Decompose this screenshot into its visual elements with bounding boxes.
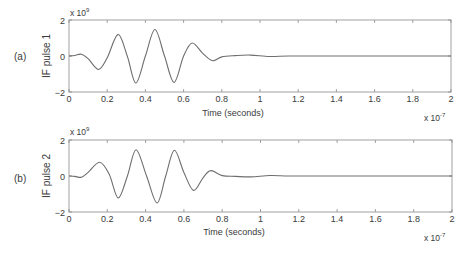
x-tick-label: 0.8 [216,214,229,224]
x-tick-label: 1.4 [330,94,343,104]
y-exponent: x 109 [70,126,90,137]
panel-b: (b) IF pulse 2 x 109 Time (seconds) x 10… [14,126,455,243]
x-tick-label: 2 [449,214,454,224]
panel-a: (a) IF pulse 1 x 109 Time (seconds) x 10… [14,7,454,123]
x-tick-label: 1.6 [368,94,381,104]
y-tick-label: 2 [60,136,65,146]
x-axis-label: Time (seconds) [203,227,265,237]
x-tick-label: 0.8 [216,94,229,104]
y-tick-label: −2 [55,88,65,98]
x-tick-labels: 00.20.40.60.811.21.41.61.82 [66,94,453,104]
x-tick-label: 0 [66,214,71,224]
y-tick-label: −2 [55,208,65,218]
y-tick-labels: 20−2 [55,16,65,98]
y-tick-label: 0 [60,172,65,182]
x-tick-label: 0.2 [101,94,114,104]
x-exponent: x 10-7 [424,232,446,243]
x-tick-labels: 00.20.40.60.811.21.41.61.82 [66,214,454,224]
x-tick-label: 0.6 [178,214,191,224]
y-tick-label: 0 [60,52,65,62]
x-tick-label: 1.2 [293,214,306,224]
x-tick-label: 1 [258,214,263,224]
x-tick-label: 1.8 [407,214,420,224]
x-tick-label: 1.2 [292,94,305,104]
x-tick-label: 1.6 [369,214,382,224]
panel-label: (a) [14,51,26,62]
x-tick-label: 0.4 [139,94,152,104]
signal-line [69,150,452,203]
x-axis-label: Time (seconds) [202,108,264,118]
signal-line [69,30,451,83]
y-exponent: x 109 [70,7,90,18]
x-tick-label: 0.4 [139,214,152,224]
y-tick-label: 2 [60,16,65,26]
x-exponent: x 10-7 [424,112,446,123]
x-tick-label: 1.8 [407,94,420,104]
panel-label: (b) [14,173,26,184]
y-axis-label: IF pulse 2 [41,154,52,198]
x-tick-label: 1 [257,94,262,104]
figure: (a) IF pulse 1 x 109 Time (seconds) x 10… [0,0,474,257]
y-axis-label: IF pulse 1 [41,34,52,78]
x-tick-label: 0.2 [101,214,114,224]
x-tick-label: 1.4 [331,214,344,224]
y-tick-labels: 20−2 [55,136,65,218]
x-tick-label: 0 [66,94,71,104]
x-tick-label: 2 [448,94,453,104]
x-tick-label: 0.6 [177,94,190,104]
